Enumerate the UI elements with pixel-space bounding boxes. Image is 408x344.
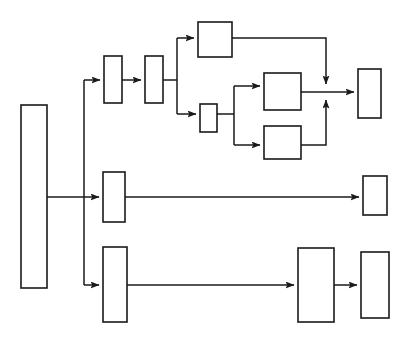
branch-a-lower-stage[interactable] xyxy=(200,104,217,132)
source-block[interactable] xyxy=(21,105,47,288)
branch-c-stage[interactable] xyxy=(103,247,127,322)
branch-c-sink[interactable] xyxy=(361,252,389,318)
branch-a-upper-block[interactable] xyxy=(198,22,232,57)
branch-a-stage-1[interactable] xyxy=(104,56,122,103)
branch-a-stage-2[interactable] xyxy=(145,56,163,103)
branch-b-sink[interactable] xyxy=(363,176,387,215)
block-flow-diagram xyxy=(0,0,408,344)
diagram-canvas xyxy=(0,0,408,344)
branch-a-sub-lower[interactable] xyxy=(264,126,301,159)
branch-a-split xyxy=(163,38,177,114)
branch-a-lower-split xyxy=(217,86,234,145)
branch-a-sub-lower-to-merge xyxy=(301,100,326,145)
branch-a-sink[interactable] xyxy=(358,69,381,118)
branch-a-sub-upper[interactable] xyxy=(264,73,301,110)
branch-c-block[interactable] xyxy=(298,248,334,322)
nodes-layer xyxy=(21,22,389,322)
branch-b-stage[interactable] xyxy=(103,172,125,222)
